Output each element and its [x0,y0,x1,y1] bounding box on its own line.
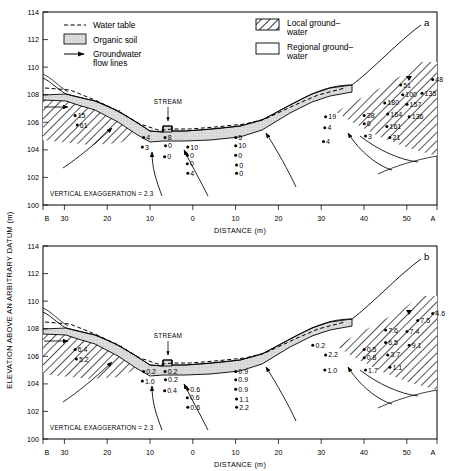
y-tick-104-b: 104 [27,379,39,388]
data-point-value: 6.5 [388,339,398,346]
data-point-marker [363,348,366,351]
legend-water-table-label: Water table [93,20,136,30]
data-point-value: 4 [326,138,330,145]
x-tick-0-a: 0 [191,214,195,223]
flow-line-b3 [152,386,162,430]
legend-local-label-line2: water [286,27,308,37]
data-point-marker [186,396,189,399]
data-point-marker [408,344,411,347]
data-point-marker [142,370,145,373]
panel-b-label: b [424,251,429,262]
data-point-marker [141,146,144,149]
y-tick-114-a: 114 [28,8,39,17]
legend-flow-label-line2: flow lines [93,58,127,68]
y-tick-100-a: 100 [27,201,39,210]
flow-line-a5 [266,133,296,187]
data-point-marker [324,353,327,356]
data-point-value: 3 [145,144,149,151]
data-point-marker [163,155,166,158]
legend-organic-soil-swatch [64,34,86,44]
x-tick-A-a: A [431,214,436,223]
data-point-marker [235,406,238,409]
x-axis-label-b: DISTANCE (m) [214,460,266,469]
flow-line-a3 [152,152,162,196]
data-point-marker [76,124,79,127]
panel-b-x-axis: B 30 20 10 0 10 20 30 40 50 A [43,439,437,457]
stream-label-b: STREAM [154,332,182,339]
data-point-marker [386,353,389,356]
x-tick-30L-b: 30 [60,448,68,457]
data-point-marker [186,162,189,165]
data-point-value: 164 [390,111,402,118]
data-point-value: 0 [190,160,194,167]
x-tick-50R-a: 50 [403,214,411,223]
flow-line-b5 [266,367,296,421]
data-point-value: 2.2 [239,404,249,411]
data-point-value: 2.2 [328,351,338,358]
data-point-value: 19 [328,113,336,120]
legend-regional-groundwater-swatch [256,43,279,54]
y-tick-102-b: 102 [27,407,39,416]
data-point-marker [74,114,77,117]
data-point-value: 136 [412,113,424,120]
x-tick-0-b: 0 [191,448,195,457]
data-point-marker [75,358,78,361]
data-point-marker [388,366,391,369]
data-point-marker [235,398,238,401]
data-point-value: 38 [367,112,375,119]
data-point-value: 5.2 [79,356,89,363]
data-point-marker [324,115,327,118]
x-tick-A-b: A [431,448,436,457]
y-tick-100-b: 100 [27,435,39,444]
data-point-marker [406,103,409,106]
x-axis-label-a: DISTANCE (m) [214,226,266,235]
data-point-value: 1.1 [392,364,402,371]
legend-organic-soil-label: Organic soil [93,35,137,45]
data-point-value: 0 [239,162,243,169]
data-point-marker [363,122,366,125]
x-tick-50R-b: 50 [403,448,411,457]
data-point-value: 0.8 [367,354,377,361]
data-point-value: 7.5 [420,317,430,324]
y-tick-108-b: 108 [27,324,39,333]
data-point-value: 4 [190,170,194,177]
data-point-marker [431,312,434,315]
data-point-value: 48 [435,76,443,83]
data-point-value: 0.2 [146,368,156,375]
x-tick-40R-a: 40 [360,214,368,223]
data-point-marker [311,344,314,347]
data-point-value: 0.9 [238,368,248,375]
data-point-value: 100 [405,91,417,98]
data-point-value: 3.7 [390,351,400,358]
data-point-marker [235,172,238,175]
stream-label-a: STREAM [154,98,182,105]
x-tick-30R-b: 30 [317,448,325,457]
data-point-marker [431,78,434,81]
data-point-value: 10 [190,144,198,151]
data-point-marker [235,164,238,167]
x-tick-10L-b: 10 [146,448,154,457]
x-tick-10R-b: 10 [232,448,240,457]
y-tick-110-a: 110 [28,63,39,72]
data-point-value: 0 [238,152,242,159]
data-point-marker [322,140,325,143]
data-point-value: 0.4 [167,387,177,394]
data-point-value: 0.2 [168,376,178,383]
legend-regional-label-line2: water [286,51,308,61]
data-point-value: 135 [425,90,437,97]
x-tick-30L-a: 30 [60,214,68,223]
data-point-value: 21 [392,134,400,141]
data-point-value: 51 [403,82,411,89]
data-point-value: 0.6 [190,404,200,411]
data-point-marker [234,378,237,381]
data-point-value: 0.9 [238,376,248,383]
data-point-value: 157 [410,101,422,108]
data-point-marker [364,135,367,138]
legend: Water table Organic soil Groundwater flo… [64,18,353,68]
data-point-marker [164,144,167,147]
x-tick-10R-a: 10 [232,214,240,223]
regional-boundary-a [378,156,437,174]
data-point-marker [186,406,189,409]
panel-a-x-axis: B 30 20 10 0 10 20 30 40 50 A [43,205,437,223]
data-point-value: 1.1 [239,396,249,403]
